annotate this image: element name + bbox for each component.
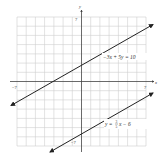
x-axis-label: x <box>154 80 157 85</box>
line-2-label-den: 5 <box>116 125 118 129</box>
tick-y-pos: 7 <box>75 17 78 22</box>
line-2-label-y: y = <box>104 121 113 127</box>
coordinate-plane: x y −7 7 7 −7 −3x + 5y = 10 y = 3 5 x − … <box>0 0 160 160</box>
line-2-label-num: 3 <box>116 120 118 124</box>
tick-y-neg: −7 <box>71 140 77 145</box>
tick-x-pos: 7 <box>144 85 147 90</box>
tick-x-neg: −7 <box>12 85 18 90</box>
line-1-label: −3x + 5y = 10 <box>103 54 136 60</box>
line-2-label-rest: x − 6 <box>118 121 131 127</box>
y-axis-label: y <box>78 4 81 9</box>
line-1 <box>11 25 153 106</box>
